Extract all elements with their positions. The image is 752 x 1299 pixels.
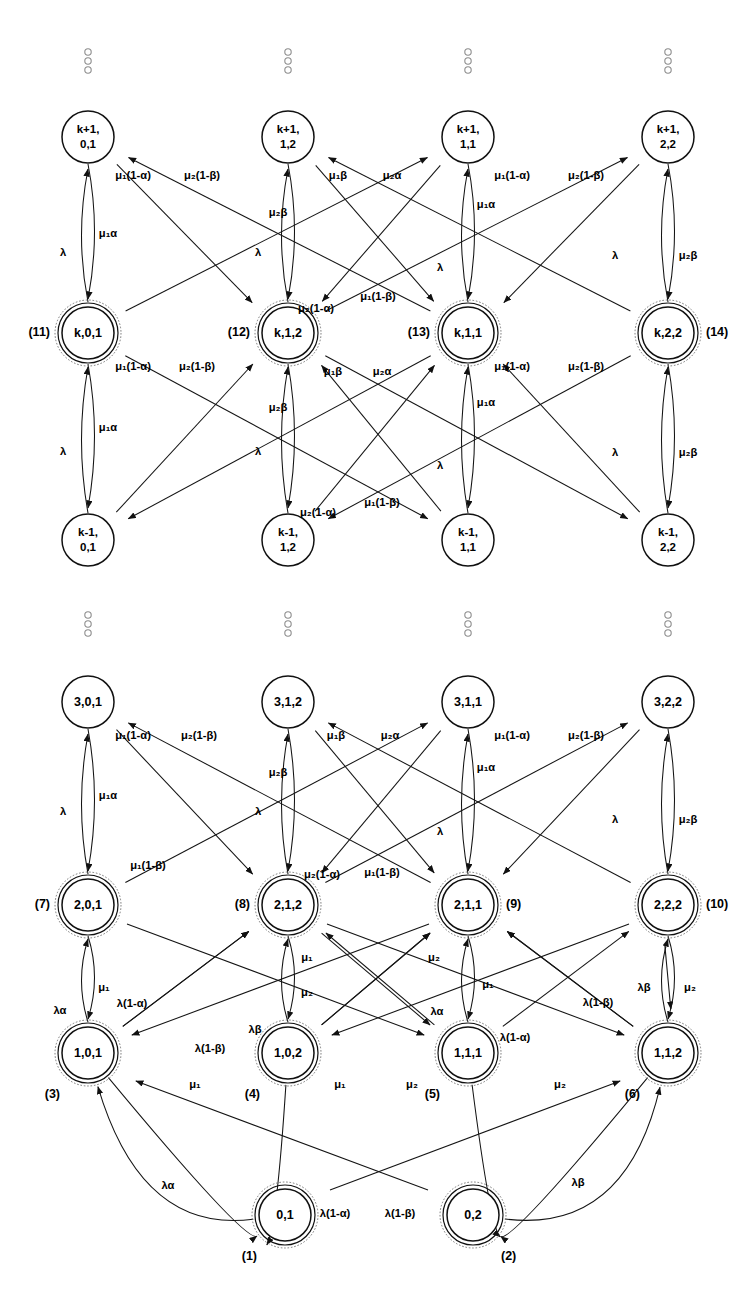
edge-cross-diagonal	[125, 356, 428, 519]
node-circle[interactable]	[262, 514, 314, 566]
node-circle[interactable]	[262, 111, 314, 163]
state-node[interactable]: 1,0,1(3)	[45, 1020, 121, 1101]
state-node[interactable]: k-1,2,2	[642, 514, 694, 566]
node-label: 1,1,1	[454, 1046, 482, 1060]
state-index-label: (11)	[28, 325, 50, 339]
transition-rate-label: μ₂β	[269, 401, 288, 413]
state-node[interactable]: k-1,1,1	[442, 514, 494, 566]
node-circle[interactable]	[62, 514, 114, 566]
transition-rate-label: μ₂β	[269, 206, 288, 218]
edge-cross-diagonal	[132, 924, 429, 1035]
dot-icon	[285, 630, 291, 636]
transition-rate-label: λβ	[248, 1023, 261, 1035]
node-label-line1: k+1,	[657, 123, 680, 135]
transition-rate-label: λ	[60, 445, 67, 457]
node-label-line1: k+1,	[277, 123, 300, 135]
dot-icon	[465, 630, 471, 636]
state-node[interactable]: k,0,1(11)	[28, 300, 121, 366]
transition-rate-label: λβ	[637, 981, 650, 993]
edge-to-empty-state	[108, 1078, 257, 1237]
dot-icon	[665, 612, 671, 618]
transition-rate-label: μ₂α	[383, 169, 402, 181]
node-circle[interactable]	[442, 514, 494, 566]
state-node[interactable]: k+1,1,2	[262, 111, 314, 163]
edge-cross-diagonal	[503, 730, 639, 875]
state-node[interactable]: 2,1,2(8)	[235, 872, 321, 938]
state-index-label: (1)	[242, 1249, 257, 1263]
transition-rate-label: μ₁(1-β)	[364, 866, 400, 878]
state-node[interactable]: 3,1,1	[442, 676, 494, 728]
transition-rate-label: μ₁(1-α)	[115, 729, 151, 741]
edge-arrival-up	[662, 734, 669, 874]
state-node[interactable]: 3,0,1	[62, 676, 114, 728]
state-index-label: (3)	[45, 1087, 60, 1101]
transition-rate-label: μ₂(1-β)	[184, 169, 220, 181]
edge-cross-diagonal	[117, 730, 253, 875]
edge-cross-diagonal	[665, 946, 671, 1009]
state-node[interactable]: k+1,2,2	[642, 111, 694, 163]
transition-rate-label: μ₁(1-β)	[130, 859, 166, 871]
transition-rate-label: λ	[60, 805, 67, 817]
state-node[interactable]: k+1,0,1	[62, 111, 114, 163]
state-node[interactable]: 0,2(2)	[440, 1182, 516, 1263]
transition-rate-label: μ₁α	[99, 421, 117, 433]
node-label: 0,2	[464, 1208, 481, 1222]
edge-cross-diagonal	[325, 356, 628, 519]
edge-cross-diagonal	[136, 1081, 428, 1190]
state-index-label: (5)	[425, 1087, 440, 1101]
node-circle[interactable]	[642, 514, 694, 566]
dot-icon	[465, 67, 471, 73]
transition-rate-label: μ₂(1-β)	[181, 729, 217, 741]
state-node[interactable]: k,1,1(13)	[408, 300, 501, 366]
edge-service-down	[88, 729, 95, 871]
transition-rate-label: μ₁(1-α)	[494, 169, 530, 181]
node-label-line1: k+1,	[77, 123, 100, 135]
dot-icon	[285, 58, 291, 64]
transition-rate-label: μ₂α	[381, 729, 400, 741]
state-node[interactable]: k+1,1,1	[442, 111, 494, 163]
transition-rate-label: λ	[255, 805, 262, 817]
node-label: 0,1	[276, 1208, 293, 1222]
node-label: k,0,1	[74, 326, 102, 340]
node-label-line1: k-1,	[458, 526, 478, 538]
state-node[interactable]: k-1,1,2	[262, 514, 314, 566]
node-label: 2,0,1	[74, 898, 102, 912]
state-node[interactable]: 2,0,1(7)	[35, 872, 121, 938]
transition-rate-label: μ₁	[189, 1078, 201, 1090]
transition-rate-label: μ₂β	[679, 813, 698, 825]
node-label-line2: 0,1	[80, 541, 97, 553]
transition-rate-label: λ	[612, 446, 619, 458]
transition-rate-label: μ₁	[98, 981, 110, 993]
edge-cross-diagonal	[128, 723, 430, 883]
edge-cross-diagonal	[504, 164, 639, 302]
state-node[interactable]: 1,1,1(5)	[425, 1020, 501, 1101]
transition-rate-label: λα	[162, 1179, 175, 1191]
transition-rate-label: μ₂(1-α)	[298, 302, 334, 314]
transition-rate-label: λ	[612, 813, 619, 825]
state-node[interactable]: 2,1,1(9)	[435, 872, 521, 938]
node-circle[interactable]	[442, 111, 494, 163]
transition-rate-label: λα	[54, 1004, 67, 1016]
state-node[interactable]: k,2,2(14)	[635, 300, 728, 366]
edge-arrival-up	[462, 367, 469, 513]
state-node[interactable]: k-1,0,1	[62, 514, 114, 566]
transition-rate-label: μ₁(1-α)	[115, 169, 151, 181]
state-index-label: (9)	[506, 897, 521, 911]
dot-icon	[285, 49, 291, 55]
state-node[interactable]: 2,2,2(10)	[635, 872, 728, 938]
edge-cross-diagonal	[325, 723, 627, 883]
transition-rate-label: λ	[437, 825, 444, 837]
transition-rate-label: λ(1-β)	[195, 1042, 226, 1054]
state-node[interactable]: 0,1(1)	[242, 1182, 318, 1263]
edge-cross-diagonal	[328, 723, 630, 883]
node-circle[interactable]	[62, 111, 114, 163]
state-node[interactable]: 3,2,2	[642, 676, 694, 728]
state-node[interactable]: 3,1,2	[262, 676, 314, 728]
dot-icon	[85, 49, 91, 55]
node-circle[interactable]	[642, 111, 694, 163]
transition-rate-label: λ(1-α)	[117, 997, 148, 1009]
node-label-line2: 2,2	[660, 138, 676, 150]
dot-icon	[85, 612, 91, 618]
state-node[interactable]: 1,1,2(6)	[625, 1020, 701, 1101]
node-label: 1,0,2	[274, 1046, 302, 1060]
